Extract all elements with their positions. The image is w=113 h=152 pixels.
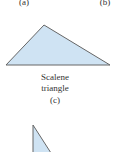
scalene-label-line1: Scalene xyxy=(30,72,80,82)
label-c: (c) xyxy=(30,95,80,105)
scalene-label-line2: triangle xyxy=(30,83,80,93)
partial-triangle xyxy=(33,125,51,152)
scalene-triangle xyxy=(6,25,110,65)
